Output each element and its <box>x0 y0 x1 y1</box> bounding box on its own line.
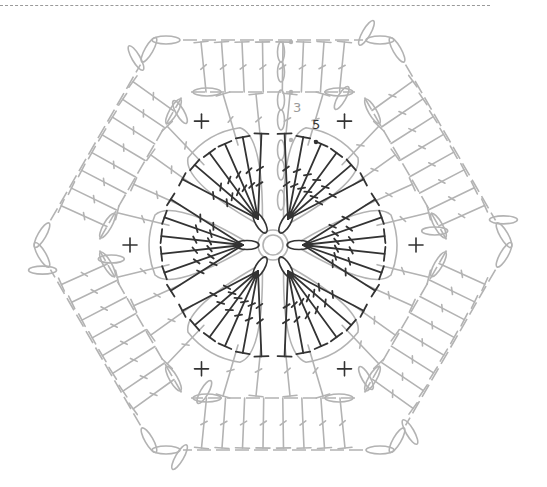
stitch-top-bar <box>194 41 208 42</box>
stitch-symbol <box>429 280 477 308</box>
stitch-tick <box>332 291 333 298</box>
stitch-symbol <box>147 305 193 341</box>
stitch-tick <box>388 292 389 299</box>
stitch-symbol <box>439 199 488 226</box>
slip-stitch <box>289 40 293 44</box>
stitch-tick <box>319 284 320 291</box>
single-crochet-mark <box>195 114 209 128</box>
stitch-symbol <box>377 265 430 284</box>
chain-stitch <box>250 210 270 235</box>
chain-stitch <box>276 210 296 235</box>
stitch-symbol <box>338 41 352 92</box>
chain-stitch <box>163 365 184 393</box>
chain-stitch <box>126 44 147 72</box>
stitch-tick <box>229 292 236 294</box>
stitch-tick <box>113 161 114 168</box>
crochet-chart: 3 5 <box>0 0 547 487</box>
stitch-symbol <box>216 345 238 398</box>
stitch-top-bar <box>318 447 332 448</box>
stitch-top-bar <box>278 133 292 134</box>
outer-round-edge <box>406 270 496 426</box>
petal <box>303 193 385 296</box>
stitch-tick <box>220 183 221 190</box>
stitch-top-bar <box>195 447 209 448</box>
stitch-top-bar <box>338 447 352 448</box>
stitch-tick <box>461 270 462 277</box>
magic-ring-inner <box>263 235 283 255</box>
current-rounds-layer <box>123 114 423 376</box>
chain-stitch <box>489 216 517 224</box>
stitch-symbol <box>162 121 204 164</box>
stitch-symbol <box>288 141 327 219</box>
stitch-tick <box>348 258 350 265</box>
stitch-tick <box>104 178 105 185</box>
stitch-top-bar <box>331 333 342 341</box>
stitch-symbol <box>372 379 417 414</box>
stitch-tick <box>432 322 433 329</box>
stitch-top-bar <box>215 448 229 449</box>
stitch-top-bar <box>161 247 163 261</box>
stitch-symbol <box>256 398 270 448</box>
stitch-symbol <box>308 345 330 398</box>
stitch-symbol <box>429 181 477 209</box>
round-label-5: 5 <box>312 117 320 132</box>
single-crochet-mark <box>338 362 352 376</box>
chain-stitch <box>139 36 160 64</box>
stitch-tick <box>210 230 212 237</box>
stitch-symbol <box>235 42 249 92</box>
stitch-top-bar <box>384 229 386 243</box>
stitch-top-bar <box>254 356 268 357</box>
stitch-symbol <box>69 280 117 308</box>
stitch-tick <box>235 315 242 316</box>
stitch-symbol <box>439 264 488 291</box>
chain-stitch <box>278 90 285 110</box>
chain-stitch <box>278 62 285 82</box>
stitch-tick <box>322 186 329 188</box>
stitch-symbol <box>215 41 229 92</box>
chain-stitch <box>139 426 160 454</box>
stitch-symbol <box>342 121 384 164</box>
stitch-tick <box>182 344 189 345</box>
stitch-symbol <box>377 206 430 225</box>
stitch-top-bar <box>215 41 229 42</box>
single-crochet-mark <box>195 362 209 376</box>
stitch-tick <box>442 305 443 312</box>
chain-stitch <box>387 36 408 64</box>
stitch-top-bar <box>204 333 215 341</box>
stitch-symbol <box>68 182 116 210</box>
stitch-top-bar <box>249 93 263 94</box>
previous-rounds-layer <box>29 19 518 472</box>
stitch-symbol <box>216 92 238 145</box>
stitch-symbol <box>147 149 193 185</box>
stitch-tick <box>185 142 187 149</box>
chain-stitch <box>494 241 515 269</box>
outer-round-edge <box>50 65 140 221</box>
stitch-top-bar <box>317 42 331 43</box>
stitch-tick <box>94 195 95 202</box>
stitch-top-bar <box>236 448 250 449</box>
stitch-tick <box>213 192 214 199</box>
stitch-symbol <box>195 398 209 449</box>
stitch-top-bar <box>384 247 386 261</box>
stitch-symbol <box>297 398 311 448</box>
chain-stitch <box>278 110 285 130</box>
single-crochet-mark <box>123 238 137 252</box>
stitch-tick <box>310 196 317 198</box>
stitch-symbol <box>162 325 204 368</box>
stitch-tick <box>227 199 228 206</box>
stitch-tick <box>304 174 311 175</box>
stitch-top-bar <box>236 352 250 355</box>
stitch-top-bar <box>236 136 250 139</box>
stitch-symbol <box>338 398 352 449</box>
round-label-3: 3 <box>293 100 301 115</box>
stitch-symbol <box>372 75 417 110</box>
slip-stitch <box>289 90 293 94</box>
chain-stitch <box>250 255 270 280</box>
stitch-tick <box>156 191 157 198</box>
slip-stitch <box>314 140 318 144</box>
single-crochet-mark <box>338 114 352 128</box>
stitch-top-bar <box>235 42 249 43</box>
stitch-symbol <box>129 76 174 111</box>
chain-stitch <box>400 418 421 446</box>
chain-stitch <box>428 250 449 278</box>
